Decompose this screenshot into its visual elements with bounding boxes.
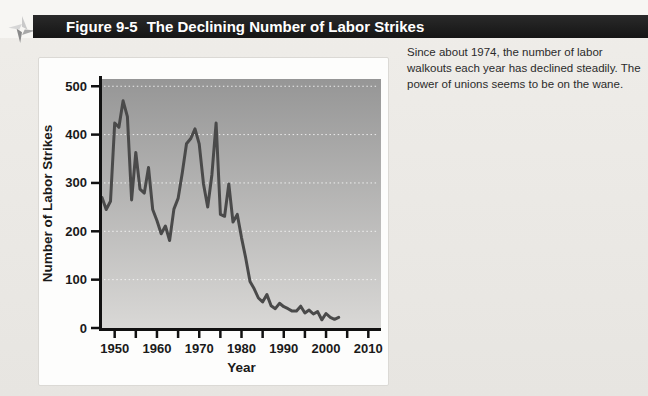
x-tick-label: 1970: [185, 341, 214, 356]
x-tick-label: 1960: [142, 341, 171, 356]
x-tick-label: 1990: [269, 341, 298, 356]
x-axis-title: Year: [227, 360, 256, 375]
y-tick-label: 300: [65, 175, 87, 190]
x-tick-label: 1980: [227, 341, 256, 356]
y-axis-ticks: 0100200300400500: [65, 79, 99, 336]
x-tick-label: 1950: [100, 341, 129, 356]
strike-chart-card: 0100200300400500195019601970198019902000…: [38, 57, 389, 386]
figure-header-bar: Figure 9-5 The Declining Number of Labor…: [33, 15, 648, 38]
x-axis-ticks: 1950196019701980199020002010: [100, 331, 383, 356]
figure-title: The Declining Number of Labor Strikes: [147, 18, 425, 35]
x-tick-label: 2000: [312, 341, 341, 356]
figure-number-label: Figure 9-5: [66, 18, 138, 35]
strike-line-chart: 0100200300400500195019601970198019902000…: [39, 58, 388, 385]
y-tick-label: 400: [65, 127, 87, 142]
figure-caption: Since about 1974, the number of labor wa…: [407, 45, 644, 93]
y-tick-label: 100: [65, 272, 87, 287]
y-tick-label: 500: [65, 79, 87, 94]
textbook-figure-page: Figure 9-5 The Declining Number of Labor…: [0, 0, 648, 396]
y-tick-label: 0: [80, 321, 87, 336]
y-axis-title: Number of Labor Strikes: [40, 125, 55, 283]
plot-area-background: [102, 79, 381, 328]
y-tick-label: 200: [65, 224, 87, 239]
x-tick-label: 2010: [354, 341, 383, 356]
